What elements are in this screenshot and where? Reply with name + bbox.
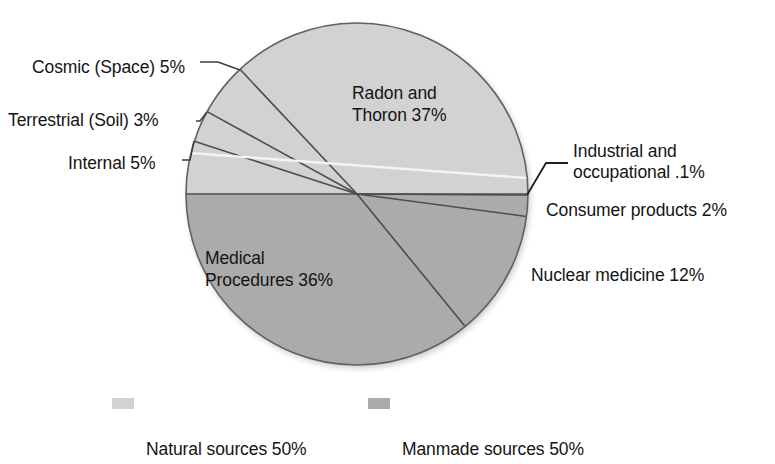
slice-label-nuclear: Nuclear medicine 12% — [531, 265, 704, 286]
pie-chart-figure: Cosmic (Space) 5% Terrestrial (Soil) 3% … — [0, 0, 775, 464]
legend-item-natural: Natural sources 50% ~310 millirem (0.31 … — [112, 392, 334, 464]
slice-label-radon-line2: Thoron 37% — [352, 104, 446, 126]
leader-line-industrial — [527, 163, 568, 195]
legend-text-manmade: Manmade sources 50% ~310 millirem (0.31 … — [402, 392, 590, 464]
slice-label-medical-line1: Medical — [205, 247, 265, 269]
legend-text-natural: Natural sources 50% ~310 millirem (0.31 … — [146, 392, 334, 464]
legend-swatch-natural — [112, 398, 134, 409]
legend-swatch-manmade — [368, 398, 390, 409]
slice-label-terrestrial: Terrestrial (Soil) 3% — [8, 110, 159, 131]
slice-label-consumer: Consumer products 2% — [546, 200, 727, 221]
leader-line-cosmic — [200, 62, 240, 70]
slice-label-medical-line2: Procedures 36% — [205, 269, 333, 291]
legend-manmade-line1: Manmade sources 50% — [402, 438, 590, 461]
slice-label-cosmic: Cosmic (Space) 5% — [32, 57, 185, 78]
slice-label-industrial-line1: Industrial and — [573, 141, 677, 162]
slice-label-industrial-line2: occupational .1% — [573, 162, 705, 183]
slice-label-radon-line1: Radon and — [352, 82, 437, 104]
slice-label-internal: Internal 5% — [68, 153, 155, 174]
legend-natural-line1: Natural sources 50% — [146, 438, 334, 461]
legend-item-manmade: Manmade sources 50% ~310 millirem (0.31 … — [368, 392, 590, 464]
